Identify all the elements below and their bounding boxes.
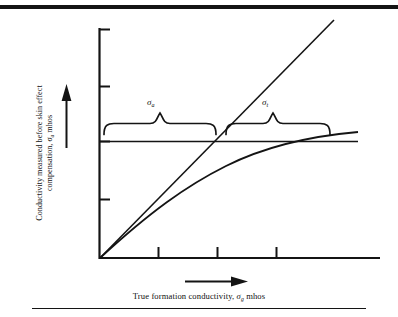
x-axis-ticks — [159, 247, 277, 258]
y-axis-title-line1: Conductivity measured before skin effect — [35, 85, 45, 220]
x-axis-title: True formation conductivity, σg mhos — [0, 291, 398, 302]
sigma-a-subscript: a — [151, 102, 154, 108]
y-axis-title-line2: compensation, σa mhos — [45, 115, 55, 191]
figure-page: Conductivity measured before skin effect… — [0, 0, 398, 317]
annotation-sigma-a: σa — [147, 97, 155, 108]
x-axis-right-arrow-icon — [185, 276, 248, 286]
sigma-t-subscript: t — [266, 102, 268, 108]
x-axis-title-prefix: True formation conductivity, — [133, 291, 237, 301]
measured-response-curve — [100, 132, 358, 258]
brace-sigma-a — [104, 113, 216, 135]
y-axis-up-arrow-icon — [62, 84, 72, 148]
bottom-rule-divider — [32, 308, 366, 309]
annotation-sigma-t: σt — [262, 97, 268, 108]
unity-reference-line — [100, 20, 334, 258]
x-axis-title-suffix: mhos — [244, 291, 265, 301]
y-axis-ticks — [99, 30, 110, 200]
y-axis-title-prefix: compensation, — [45, 142, 54, 192]
y-axis-title-suffix: mhos — [45, 115, 54, 135]
y-axis-title: Conductivity measured before skin effect… — [32, 38, 58, 268]
brace-sigma-t — [226, 113, 330, 135]
plot-canvas — [0, 0, 398, 317]
sigma-subscript-y: a — [48, 135, 54, 138]
sigma-symbol-y: σ — [45, 137, 54, 141]
